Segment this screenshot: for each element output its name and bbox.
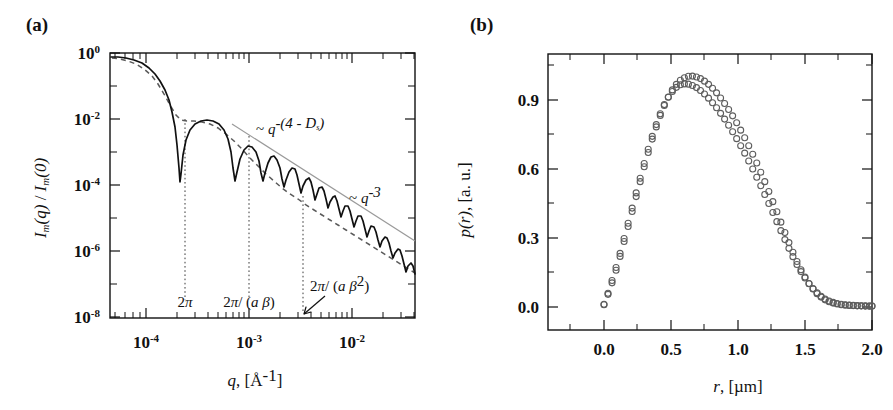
panel-a-guide-line [232, 124, 415, 241]
svg-text:2π: 2π [177, 294, 193, 310]
data-point [738, 127, 744, 133]
data-point [750, 166, 756, 172]
data-point [734, 120, 740, 126]
data-point [665, 94, 671, 100]
panel-b-x-major-ticks [604, 54, 872, 330]
panel-b-y-axis-title: p(r), [a. u.] [455, 162, 474, 238]
data-point [774, 219, 780, 225]
svg-text:10-6: 10-6 [74, 241, 101, 261]
panel-b-x-ticklabels: 0.0 0.5 1.0 1.5 2.0 [593, 340, 882, 359]
panel-b: (b) p(r), [a. u.] 0.9 0.6 0.3 0.0 0.0 0.… [446, 0, 893, 410]
panel-b-x-axis-title: r, [µm] [713, 377, 762, 396]
data-point [722, 116, 728, 122]
panel-b-plot: p(r), [a. u.] 0.9 0.6 0.3 0.0 0.0 0.5 1.… [446, 0, 893, 410]
panel-b-data-points [601, 73, 875, 309]
data-point [718, 95, 724, 101]
data-point [742, 150, 748, 156]
panel-a-x-axis-title: q, [Å-1] [228, 366, 283, 390]
annotation-marker-2pi-over-a-beta: 2π/ (a β) [223, 294, 275, 311]
svg-text:0.0: 0.0 [518, 298, 539, 317]
panel-a-vertical-markers [185, 119, 303, 312]
data-point [790, 254, 796, 260]
svg-text:0.6: 0.6 [518, 160, 539, 179]
panel-b-y-major-ticks [548, 100, 872, 307]
figure-root: (a) Im(q) / Im(0) 100 10-2 10-4 10-6 10-… [0, 0, 893, 410]
svg-text:10-2: 10-2 [74, 109, 101, 129]
panel-a-y-ticklabels: 100 10-2 10-4 10-6 10-8 [74, 43, 101, 327]
annotation-arrow-icon [304, 296, 325, 314]
data-point [742, 135, 748, 141]
svg-text:10-4: 10-4 [133, 332, 160, 352]
svg-text:0.5: 0.5 [660, 340, 681, 359]
data-point [633, 190, 639, 196]
panel-a: (a) Im(q) / Im(0) 100 10-2 10-4 10-6 10-… [0, 0, 447, 410]
data-point [762, 192, 768, 198]
data-point [750, 151, 756, 157]
data-point [754, 174, 760, 180]
data-point [726, 122, 732, 128]
svg-text:0.0: 0.0 [593, 340, 614, 359]
data-point [782, 237, 788, 243]
data-point [786, 240, 792, 246]
data-point [722, 100, 728, 106]
svg-text:10-2: 10-2 [339, 332, 366, 352]
data-point [758, 183, 764, 189]
panel-a-x-ticklabels: 10-4 10-3 10-2 [133, 332, 366, 352]
data-point [718, 110, 724, 116]
data-point [746, 158, 752, 164]
svg-text:Im(q) / Im(0): Im(q) / Im(0) [31, 158, 51, 239]
panel-b-y-ticklabels: 0.9 0.6 0.3 0.0 [518, 91, 539, 317]
svg-text:1.5: 1.5 [794, 340, 815, 359]
data-point [734, 136, 740, 142]
annotation-power-law-minus-3: ~ q-3 [349, 184, 381, 206]
svg-text:10-8: 10-8 [74, 307, 101, 327]
svg-text:0.9: 0.9 [518, 91, 539, 110]
svg-text:~ q-(4 - Ds): ~ q-(4 - Ds) [256, 115, 324, 137]
data-point [730, 129, 736, 135]
data-point [766, 189, 772, 195]
svg-text:2π/ (a β): 2π/ (a β) [223, 294, 275, 311]
data-point [770, 209, 776, 215]
data-point [746, 143, 752, 149]
svg-text:~ q-3: ~ q-3 [349, 184, 381, 206]
data-point [689, 73, 695, 79]
data-point [738, 143, 744, 149]
panel-a-y-axis-title: Im(q) / Im(0) [31, 158, 51, 239]
annotation-power-law-4-minus-ds: ~ q-(4 - Ds) [256, 115, 324, 137]
svg-text:r, [µm]: r, [µm] [713, 377, 762, 396]
panel-a-envelope-curve [112, 58, 415, 273]
panel-a-plot: Im(q) / Im(0) 100 10-2 10-4 10-6 10-8 10… [0, 0, 447, 410]
data-point [730, 113, 736, 119]
data-point [685, 81, 691, 87]
data-point [786, 245, 792, 251]
svg-text:2π/ (a β2): 2π/ (a β2) [310, 273, 369, 295]
annotation-marker-2pi-over-a-beta-squared: 2π/ (a β2) [310, 273, 369, 295]
svg-text:10-4: 10-4 [74, 175, 101, 195]
data-point [697, 88, 703, 94]
svg-text:p(r), [a. u.]: p(r), [a. u.] [455, 162, 474, 238]
data-point [714, 105, 720, 111]
svg-text:2.0: 2.0 [861, 340, 882, 359]
svg-text:100: 100 [78, 43, 101, 63]
annotation-marker-2pi: 2π [177, 294, 193, 310]
data-point [726, 106, 732, 112]
panel-b-x-minor-ticks [570, 54, 838, 330]
svg-text:q, [Å-1]: q, [Å-1] [228, 366, 283, 390]
svg-text:10-3: 10-3 [236, 332, 263, 352]
svg-text:0.3: 0.3 [518, 229, 539, 248]
data-point [754, 160, 760, 166]
svg-text:1.0: 1.0 [727, 340, 748, 359]
panel-a-intensity-curve [111, 57, 415, 274]
